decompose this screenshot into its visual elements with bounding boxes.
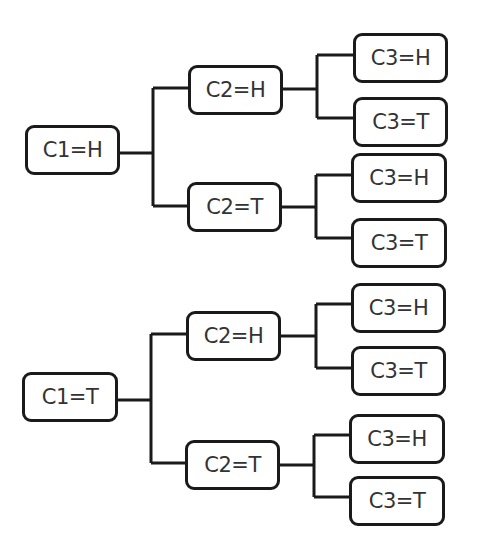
node-c1t-c2t: C2=T bbox=[185, 440, 280, 490]
connector-c1h-c2h bbox=[283, 55, 354, 118]
connector-c1t-c2t bbox=[280, 435, 350, 497]
node-c1h-c2h-c3h: C3=H bbox=[353, 33, 448, 83]
node-c1t-c2t-c3t: C3=T bbox=[349, 476, 445, 526]
connector-c1t bbox=[118, 334, 187, 463]
node-c1h-c2t-c3h: C3=H bbox=[351, 153, 447, 203]
node-c1h-c2t: C2=T bbox=[187, 182, 282, 232]
connector-c1t-c2h bbox=[281, 304, 352, 368]
node-c1t: C1=T bbox=[22, 372, 118, 422]
connector-c1h-c2t bbox=[281, 175, 352, 238]
node-c1h-c2t-c3t: C3=T bbox=[351, 218, 447, 268]
connector-c1h bbox=[120, 88, 189, 206]
node-c1h: C1=H bbox=[25, 125, 120, 175]
node-c1t-c2h-c3h: C3=H bbox=[351, 283, 446, 333]
node-c1h-c2h-c3t: C3=T bbox=[353, 97, 448, 147]
node-c1t-c2h: C2=H bbox=[186, 311, 281, 361]
node-c1h-c2h: C2=H bbox=[188, 65, 283, 115]
node-c1t-c2t-c3h: C3=H bbox=[349, 414, 445, 464]
node-c1t-c2h-c3t: C3=T bbox=[351, 346, 446, 396]
